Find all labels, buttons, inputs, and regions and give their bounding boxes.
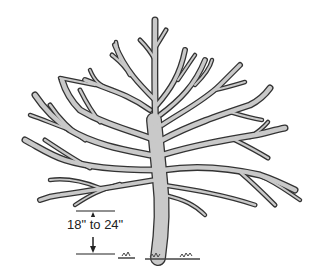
- arrow-down-icon: [90, 246, 96, 253]
- tree-drawing: [0, 0, 313, 278]
- dimension-label: 18" to 24": [66, 217, 124, 232]
